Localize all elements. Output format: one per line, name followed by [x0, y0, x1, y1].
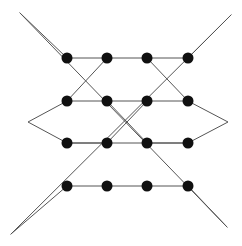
- vertex-dot-r1c2: [102, 53, 113, 64]
- vertex-dot-r1c3: [142, 53, 153, 64]
- diagonal-top-left-to-bottom-right: [20, 13, 227, 227]
- vertex-dot-r3c3: [142, 138, 153, 149]
- vertex-dot-r2c4: [183, 96, 194, 107]
- vertex-dot-r1c1: [62, 53, 73, 64]
- figure-canvas: [0, 0, 242, 246]
- vertex-dot-r3c4: [183, 138, 194, 149]
- diagonal-top-right-to-bottom-left: [11, 15, 231, 234]
- vertex-dot-r4c4: [183, 181, 194, 192]
- vertex-dot-r4c1: [62, 181, 73, 192]
- vertex-dot-r2c2: [102, 96, 113, 107]
- vertex-dot-r4c2: [102, 181, 113, 192]
- geometric-figure: [0, 0, 242, 246]
- upper-zigzag-chain: [20, 13, 231, 58]
- vertex-dot-r3c2: [102, 138, 113, 149]
- vertex-dot-r2c3: [142, 96, 153, 107]
- vertex-dot-r2c1: [62, 96, 73, 107]
- vertex-dot-r4c3: [142, 181, 153, 192]
- vertex-dot-r3c1: [62, 138, 73, 149]
- lines-group: [11, 13, 231, 234]
- vertex-dot-r1c4: [183, 53, 194, 64]
